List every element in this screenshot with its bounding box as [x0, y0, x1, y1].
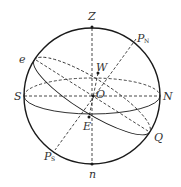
label-east: E	[82, 120, 91, 133]
label-nadir: n	[89, 168, 96, 181]
label-center: O	[96, 88, 105, 101]
east-point	[88, 116, 91, 119]
label-equator-left: e	[19, 53, 26, 66]
label-zenith: Z	[87, 10, 96, 23]
equator-front	[25, 60, 149, 146]
label-south: S	[14, 90, 22, 103]
label-north: N	[162, 90, 173, 103]
label-west: W	[96, 61, 109, 74]
nadir-point	[91, 163, 94, 166]
zenith-point	[91, 26, 94, 29]
center-point	[92, 95, 95, 98]
label-north-pole-sub: N	[144, 37, 149, 44]
label-south-pole-sub: S	[51, 155, 55, 162]
celestial-sphere-diagram: Z n S N W O E e Q P N P S	[0, 0, 181, 187]
label-equator-right: Q	[154, 131, 163, 144]
